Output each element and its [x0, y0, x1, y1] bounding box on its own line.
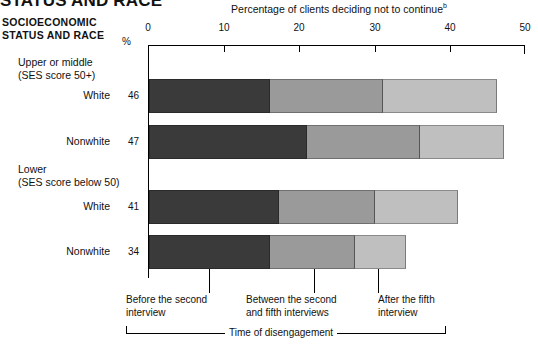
- x-axis-label-50: 50: [519, 22, 530, 33]
- bar-segment-2-2: [375, 190, 458, 224]
- legend-item-1-line-2: and fifth interviews: [246, 307, 337, 320]
- row-value-3: 34: [0, 246, 139, 257]
- bracket-end-right: [445, 326, 446, 334]
- row-value-0: 46: [0, 90, 139, 101]
- legend-item-0-line-2: interview: [126, 307, 207, 320]
- legend-item-1: Between the second and fifth interviews: [246, 294, 337, 319]
- bar-segment-0-0: [149, 79, 270, 113]
- legend-leader-line-0: [209, 269, 210, 293]
- side-heading-line-2: STATUS AND RACE: [2, 29, 104, 42]
- x-axis-label-40: 40: [444, 22, 455, 33]
- chart-title-text: Percentage of clients deciding not to co…: [231, 3, 443, 15]
- side-heading-line-1: SOCIOECONOMIC: [2, 16, 104, 29]
- x-axis-label-30: 30: [369, 22, 380, 33]
- bar-segment-3-1: [270, 235, 355, 269]
- legend-item-0-line-1: Before the second: [126, 294, 207, 307]
- chart-root: STATUS AND RACE SOCIOECONOMIC STATUS AND…: [0, 0, 538, 347]
- bar-segment-3-2: [355, 235, 406, 269]
- legend-item-2-line-1: After the fifth: [378, 294, 435, 307]
- bracket-end-left: [126, 326, 127, 334]
- bar-segment-0-1: [270, 79, 383, 113]
- row-value-1: 47: [0, 136, 139, 147]
- group-2-line-2: (SES score below 50): [18, 176, 120, 189]
- legend-leader-line-1: [314, 269, 315, 293]
- group-label-upper-middle: Upper or middle (SES score 50+): [18, 56, 95, 82]
- legend-item-2: After the fifth interview: [378, 294, 435, 319]
- bar-segment-2-0: [149, 190, 279, 224]
- x-axis-label-20: 20: [293, 22, 304, 33]
- x-axis-tick-20: [299, 46, 300, 52]
- bar-segment-0-2: [383, 79, 497, 113]
- legend-leader-line-2: [378, 269, 379, 293]
- row-value-2: 41: [0, 201, 139, 212]
- bar-row-0: [149, 79, 497, 113]
- clipped-heading: STATUS AND RACE: [0, 0, 162, 11]
- x-axis-tick-10: [224, 46, 225, 52]
- bar-segment-3-0: [149, 235, 270, 269]
- group-1-line-2: (SES score 50+): [18, 69, 95, 82]
- x-axis-label-0: 0: [145, 22, 151, 33]
- group-1-line-1: Upper or middle: [18, 56, 95, 69]
- bar-segment-1-0: [149, 125, 307, 159]
- bar-row-1: [149, 125, 504, 159]
- percent-symbol: %: [122, 36, 131, 47]
- x-axis-tick-40: [450, 46, 451, 52]
- group-label-lower: Lower (SES score below 50): [18, 163, 120, 189]
- x-axis-line: [148, 45, 525, 46]
- bracket-label: Time of disengagement: [225, 327, 337, 338]
- chart-title: Percentage of clients deciding not to co…: [148, 2, 530, 15]
- legend-item-1-line-1: Between the second: [246, 294, 337, 307]
- bar-row-3: [149, 235, 406, 269]
- legend-item-2-line-2: interview: [378, 307, 435, 320]
- bar-segment-1-2: [420, 125, 504, 159]
- x-axis-right-end: [524, 45, 525, 54]
- bar-row-2: [149, 190, 458, 224]
- x-axis-tick-30: [375, 46, 376, 52]
- group-2-line-1: Lower: [18, 163, 120, 176]
- bar-segment-2-1: [279, 190, 375, 224]
- chart-title-footnote: b: [443, 2, 447, 9]
- axis-group-heading: SOCIOECONOMIC STATUS AND RACE: [2, 16, 104, 41]
- x-axis-label-10: 10: [218, 22, 229, 33]
- legend-item-0: Before the second interview: [126, 294, 207, 319]
- bar-segment-1-1: [307, 125, 420, 159]
